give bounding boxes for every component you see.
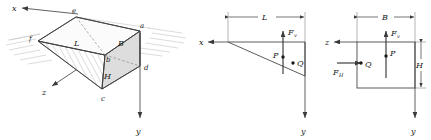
panel2-point-P-label: P — [272, 51, 279, 60]
panel1-z-axis-label: z — [41, 88, 47, 97]
panel-side-elevation: L x y F v P Q — [199, 11, 306, 136]
panel3-force-vertical-subscript: v — [397, 33, 400, 39]
panel3-force-horizontal-label: F — [332, 68, 339, 77]
panel-3d-wedge: x y z e f a b c d L B H — [6, 4, 186, 136]
panel1-x-axis-label: x — [12, 4, 17, 13]
panel3-dimension-H-line: H — [414, 43, 428, 87]
panel3-dimension-B-line: B — [358, 11, 414, 22]
panel3-point-P-label: P — [389, 49, 396, 58]
panel1-z-axis: z — [41, 70, 76, 97]
panel2-y-axis-label: y — [300, 127, 306, 136]
figure-canvas: x y z e f a b c d L B H L — [0, 0, 431, 140]
panel3-dimension-H-label: H — [415, 61, 424, 70]
panel3-dimension-B-label: B — [381, 13, 388, 22]
vertex-label-e: e — [72, 7, 76, 15]
panel3-force-vertical-label: F — [390, 29, 397, 38]
panel-front-elevation: B H z y F v F — [324, 11, 428, 136]
panel1-dimension-L: L — [73, 39, 79, 48]
panel1-dimension-B: B — [117, 39, 124, 48]
panel3-y-axis: y — [410, 42, 416, 136]
panel2-force-vertical-subscript: v — [294, 32, 297, 38]
panel2-force-vertical-label: F — [287, 28, 294, 37]
panel2-dimension-L-label: L — [261, 13, 267, 22]
panel3-z-axis-label: z — [324, 38, 330, 47]
vertex-label-d: d — [144, 64, 149, 72]
panel2-point-Q-label: Q — [297, 59, 304, 68]
panel1-x-axis: x — [12, 4, 78, 14]
panel3-force-horizontal-subscript: H — [338, 72, 344, 78]
vertex-label-f: f — [28, 35, 33, 43]
panel3-z-axis: z — [324, 38, 357, 47]
panel1-dimension-H: H — [103, 72, 112, 81]
panel1-y-axis-label: y — [135, 127, 141, 136]
panel2-x-axis-label: x — [199, 38, 204, 47]
panel2-triangle — [228, 42, 305, 76]
engineering-diagram-svg: x y z e f a b c d L B H L — [0, 0, 431, 140]
vertex-label-a: a — [140, 22, 144, 30]
panel3-y-axis-label: y — [410, 127, 416, 136]
panel3-point-Q: Q — [359, 60, 372, 69]
vertex-label-c: c — [101, 95, 105, 103]
panel3-point-Q-label: Q — [365, 60, 372, 69]
panel2-dimension-L-line: L — [229, 11, 304, 22]
vertex-label-b: b — [106, 56, 111, 64]
panel2-x-axis: x — [199, 38, 228, 47]
